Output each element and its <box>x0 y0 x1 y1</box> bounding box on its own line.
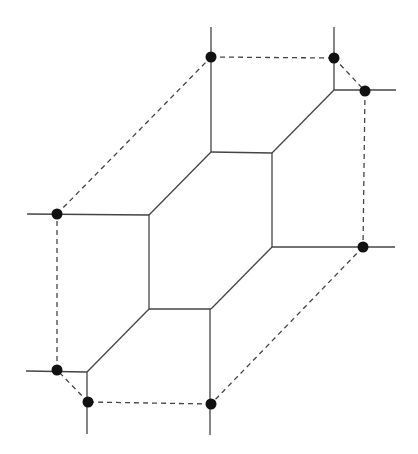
solid-edge <box>149 152 211 215</box>
vertex-dot <box>206 399 217 410</box>
dashed-edge <box>57 57 211 214</box>
diagram-canvas <box>0 0 418 454</box>
dashed-edge <box>211 247 363 404</box>
vertex-dot <box>329 53 340 64</box>
dashed-edge <box>88 402 211 404</box>
solid-edge <box>87 309 149 372</box>
solid-edge <box>272 90 334 153</box>
solid-edge <box>27 214 149 215</box>
solid-edge <box>211 247 272 309</box>
dashed-edge <box>334 58 365 91</box>
dashed-edge <box>211 57 334 58</box>
tropical-curve-edges <box>26 27 396 435</box>
vertex-dot <box>360 86 371 97</box>
vertex-dot <box>52 209 63 220</box>
dashed-edge <box>57 370 88 402</box>
solid-edge <box>211 152 272 153</box>
vertex-dot <box>358 242 369 253</box>
dashed-edge <box>363 91 365 247</box>
vertex-dot <box>83 397 94 408</box>
vertex-dot <box>52 365 63 376</box>
vertex-dot <box>206 52 217 63</box>
